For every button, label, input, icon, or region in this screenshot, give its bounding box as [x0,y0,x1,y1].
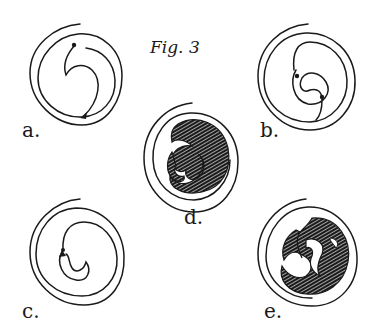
panel-e-label: e. [264,299,282,323]
panel-a-spiral-icon [30,24,122,125]
panel-d-label: d. [184,205,203,229]
panel-b-label: b. [260,118,279,142]
panel-c-spiral-icon [30,199,124,305]
figure-canvas: Fig. 3 a. b. d. c. e. [0,0,376,335]
panel-a-label: a. [22,118,40,142]
panel-b-spiral-icon [258,24,355,130]
panel-c-label: c. [22,299,40,323]
panel-d-hatched-spiral-icon [144,103,238,212]
panel-e-hatched-triskele-icon [258,199,357,306]
figure-title: Fig. 3 [149,37,200,57]
